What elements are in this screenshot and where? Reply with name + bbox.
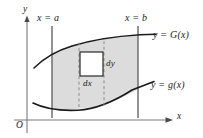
label-y-equals-g-of-x: y = g(x) — [151, 80, 185, 90]
label-y-axis: y — [23, 5, 27, 15]
figure-container: x = a x = b y = G(x) y = g(x) dy dx y x … — [0, 0, 203, 138]
figure-canvas — [0, 0, 203, 138]
label-dx: dx — [83, 79, 92, 88]
label-x-axis: x — [177, 112, 181, 122]
y-axis-arrowhead — [24, 16, 29, 23]
label-x-equals-b: x = b — [125, 13, 147, 23]
label-origin: O — [16, 121, 23, 131]
label-dy: dy — [106, 59, 115, 68]
label-x-equals-a: x = a — [37, 13, 59, 23]
x-axis-arrowhead — [166, 117, 174, 122]
area-element-rect — [80, 52, 103, 76]
label-y-equals-G-of-x: y = G(x) — [153, 30, 189, 40]
